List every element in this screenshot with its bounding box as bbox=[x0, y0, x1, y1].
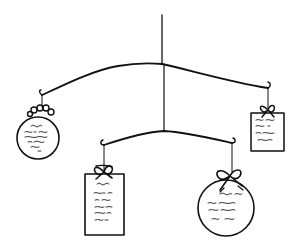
bow-icon bbox=[28, 105, 55, 117]
ornament-right-round bbox=[198, 143, 254, 236]
ornament-right-tag bbox=[251, 88, 284, 151]
upper-crossbar bbox=[40, 63, 271, 95]
mobile-drawing bbox=[0, 0, 300, 252]
note-scribble bbox=[256, 120, 274, 141]
bow-icon bbox=[260, 106, 274, 118]
lower-crossbar bbox=[101, 131, 235, 145]
note-scribble bbox=[94, 183, 112, 221]
note-scribble bbox=[25, 125, 47, 151]
mobile-illustration: Hanging mobile line drawing bbox=[0, 0, 300, 252]
bow-icon bbox=[94, 165, 112, 179]
note-scribble bbox=[208, 193, 242, 220]
ornament-left-round bbox=[17, 95, 59, 159]
ornament-middle-tag bbox=[85, 145, 124, 235]
